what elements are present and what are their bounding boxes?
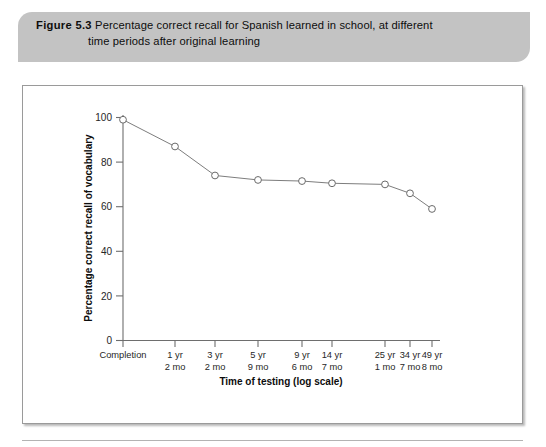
figure-frame bbox=[22, 85, 523, 424]
figure-caption-line1: Percentage correct recall for Spanish le… bbox=[95, 19, 433, 31]
figure-number-label: Figure 5.3 bbox=[36, 19, 92, 31]
figure-caption-text: Figure 5.3 Percentage correct recall for… bbox=[36, 18, 520, 49]
figure-caption-bar: Figure 5.3 Percentage correct recall for… bbox=[18, 12, 530, 62]
figure-caption-line2: time periods after original learning bbox=[88, 34, 520, 50]
page-bottom-rule bbox=[22, 440, 523, 441]
